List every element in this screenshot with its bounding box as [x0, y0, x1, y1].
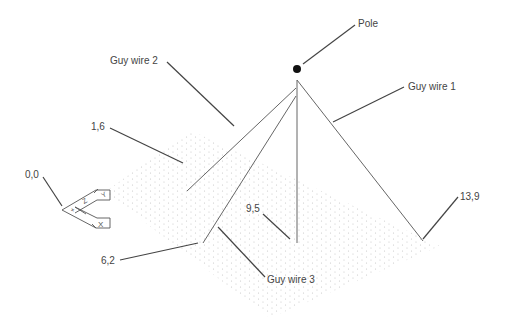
label-point-6-2: 6,2	[101, 256, 115, 266]
axis-z-label: Z	[81, 196, 89, 205]
label-guy-wire-1: Guy wire 1	[408, 82, 456, 92]
ground-grid	[105, 130, 440, 318]
label-guy-wire-3: Guy wire 3	[267, 275, 315, 285]
label-pole: Pole	[358, 19, 378, 29]
label-point-1-6: 1,6	[91, 122, 105, 132]
leader-pole	[303, 25, 355, 64]
axis-x-label: X	[98, 220, 104, 229]
guy-wire-diagram: Y Z + X	[0, 0, 506, 325]
label-point-9-5: 9,5	[246, 204, 260, 214]
label-guy-wire-2: Guy wire 2	[110, 56, 158, 66]
leader-13-9	[423, 197, 458, 239]
leader-origin	[43, 177, 62, 206]
leader-guy-wire-2	[167, 62, 234, 126]
leader-guy-wire-1	[333, 87, 404, 122]
label-origin: 0,0	[25, 170, 39, 180]
pole-icon	[293, 65, 301, 73]
label-point-13-9: 13,9	[460, 192, 479, 202]
